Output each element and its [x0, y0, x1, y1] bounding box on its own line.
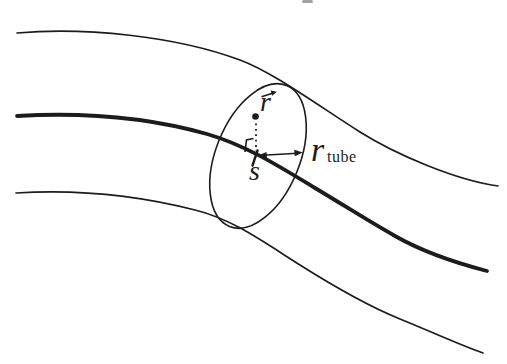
r-tube-label-subscript: tube	[327, 149, 357, 165]
r-tube-label-base: r	[311, 133, 324, 167]
arrowhead-right-icon	[294, 150, 303, 156]
r-vector-label: r	[260, 88, 271, 116]
tube-lower-boundary-curve	[16, 192, 483, 353]
vector-arrowhead-icon	[271, 90, 277, 95]
tube-radius-arrow-icon	[258, 150, 303, 159]
tube-diagram-figure: r s r tube	[0, 0, 507, 364]
tube-radius-arrow-shaft	[263, 153, 298, 155]
point-r-dot	[252, 113, 259, 120]
s-label: s	[249, 157, 260, 185]
scan-artifact	[302, 0, 313, 3]
